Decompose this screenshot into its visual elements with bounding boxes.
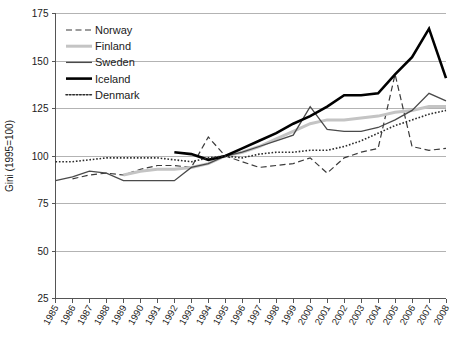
y-tick-label: 25 <box>37 293 49 304</box>
legend-label-denmark: Denmark <box>95 89 140 101</box>
x-tick-label: 2001 <box>312 303 332 327</box>
x-tick-label: 1990 <box>126 303 146 327</box>
chart-legend: NorwayFinlandSwedenIcelandDenmark <box>66 24 140 101</box>
x-tick-label: 1992 <box>159 303 179 327</box>
legend-label-sweden: Sweden <box>95 56 135 68</box>
x-tick-label: 1993 <box>176 303 196 327</box>
x-tick-label: 1985 <box>41 303 61 327</box>
y-axis-title: Gini (1995=100) <box>4 120 15 192</box>
x-tick-label: 1987 <box>75 303 95 327</box>
x-tick-label: 2002 <box>329 303 349 327</box>
x-tick-label: 2003 <box>346 303 366 327</box>
legend-label-iceland: Iceland <box>95 73 130 85</box>
x-tick-label: 1999 <box>278 303 298 327</box>
y-tick-label: 50 <box>37 246 49 257</box>
x-tick-label: 1997 <box>244 303 264 327</box>
x-tick-label: 2006 <box>397 303 417 327</box>
y-axis-ticks: 255075100125150175 <box>32 8 56 304</box>
legend-label-norway: Norway <box>95 24 133 36</box>
y-tick-label: 175 <box>32 8 49 19</box>
chart-canvas: 255075100125150175 198519861987198819891… <box>0 0 453 338</box>
y-tick-label: 75 <box>37 198 49 209</box>
x-tick-label: 1994 <box>193 303 213 327</box>
gini-index-line-chart: 255075100125150175 198519861987198819891… <box>0 0 453 338</box>
x-tick-label: 2000 <box>295 303 315 327</box>
x-tick-label: 1995 <box>210 303 230 327</box>
x-tick-label: 1986 <box>58 303 78 327</box>
x-tick-label: 1996 <box>227 303 247 327</box>
y-tick-label: 150 <box>32 56 49 67</box>
x-tick-label: 2004 <box>363 303 383 327</box>
x-tick-label: 2005 <box>380 303 400 327</box>
x-tick-label: 1988 <box>92 303 112 327</box>
x-tick-label: 1991 <box>143 303 163 327</box>
y-axis-label: Gini (1995=100) <box>4 120 15 192</box>
x-tick-label: 1989 <box>109 303 129 327</box>
series-line-iceland <box>174 29 446 160</box>
x-axis-ticks: 1985198619871988198919901991199219931994… <box>41 299 452 327</box>
x-tick-label: 2007 <box>414 303 434 327</box>
series-line-denmark <box>56 110 447 161</box>
y-tick-label: 125 <box>32 103 49 114</box>
x-tick-label: 2008 <box>431 303 451 327</box>
legend-label-finland: Finland <box>95 40 131 52</box>
y-tick-label: 100 <box>32 151 49 162</box>
x-tick-label: 1998 <box>261 303 281 327</box>
